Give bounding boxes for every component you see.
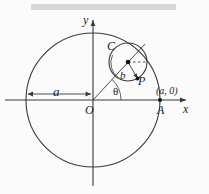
small-circle-center-dot [126, 60, 131, 65]
figure-container: y x O A (a, 0) a C b P θ [0, 0, 209, 194]
angle-b-arc [111, 55, 119, 78]
origin-label: O [85, 104, 94, 116]
center-ray [93, 44, 145, 100]
y-axis-label: y [83, 14, 88, 26]
radius-a-label: a [53, 85, 60, 98]
geometry-diagram-svg [0, 0, 209, 194]
angle-theta-label: θ [113, 86, 118, 97]
point-a-label: A [157, 104, 164, 116]
radius-b-segment [128, 62, 138, 79]
point-A-dot [158, 98, 162, 102]
x-axis-label: x [183, 103, 188, 115]
point-a-coords-label: (a, 0) [156, 86, 178, 96]
circle-center-label: C [107, 40, 115, 52]
radius-b-label: b [120, 70, 126, 81]
point-p-label: P [138, 75, 145, 87]
